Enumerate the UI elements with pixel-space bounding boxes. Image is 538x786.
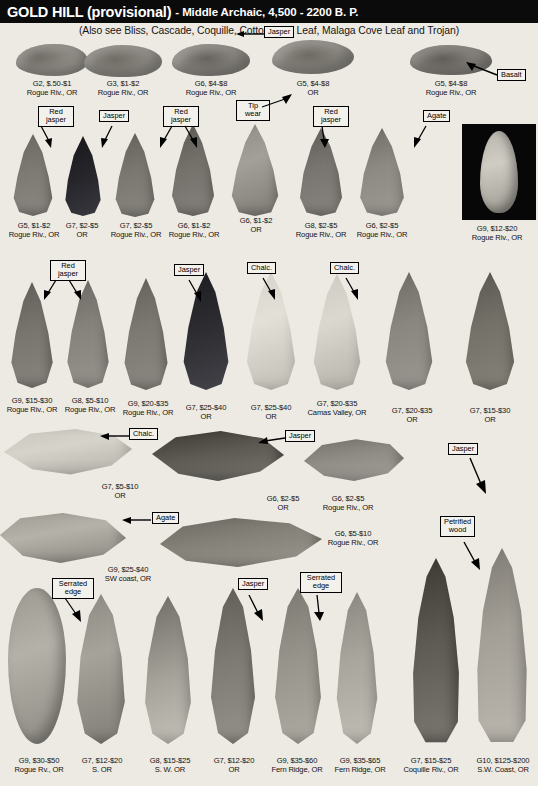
callout-serrated-edge-1: Serrated edge	[52, 578, 94, 599]
caption-locality: OR	[72, 491, 168, 500]
callout-chalc-3: Chalc.	[129, 428, 158, 440]
caption-grade-price: G10, $125-$200	[455, 756, 538, 765]
leader-agate-2	[122, 516, 152, 526]
artifact-r3-3	[121, 278, 171, 390]
leader-red-jasper-2a	[158, 126, 174, 148]
artifact-r5-2	[160, 516, 322, 568]
leader-jasper-5	[466, 458, 488, 494]
artifact-r6-6	[334, 592, 380, 744]
leader-jasper-3	[188, 280, 204, 302]
leader-chalc-1	[262, 278, 278, 300]
callout-chalc-1: Chalc.	[247, 262, 276, 274]
caption-r6-8: G10, $125-$200 S.W. Coast, OR	[455, 756, 538, 774]
leader-serrated-edge-2	[312, 595, 326, 621]
leader-red-jasper-4a	[42, 280, 58, 300]
artifact-r1-3	[172, 44, 250, 76]
caption-r2-7: G6, $2-$5 Rogue Riv., OR	[336, 221, 428, 239]
artifact-r2-8-frame	[462, 124, 536, 220]
artifact-image	[334, 592, 380, 744]
callout-agate-2: Agate	[152, 512, 179, 524]
caption-locality: Rogue Riv., OR	[163, 88, 259, 97]
artifact-image	[8, 588, 66, 744]
leader-chalc-3	[100, 432, 130, 442]
caption-locality: Rogue Riv., OR	[403, 88, 499, 97]
leader-red-jasper-3	[318, 126, 332, 148]
artifact-r3-8	[462, 272, 518, 390]
callout-jasper-5: Jasper	[448, 443, 478, 455]
caption-grade-price: G6, $5-$10	[305, 529, 401, 538]
caption-locality: Rogue Riv., OR	[336, 230, 428, 239]
artifact-image	[112, 133, 158, 217]
callout-jasper-6: Jasper	[238, 578, 268, 590]
artifact-image	[16, 44, 88, 76]
artifact-image	[228, 124, 282, 216]
caption-r5-2: G6, $5-$10 Rogue Riv., OR	[305, 529, 401, 547]
artifact-image	[0, 512, 126, 564]
artifact-image	[382, 272, 436, 390]
artifact-r1-2	[84, 45, 162, 77]
caption-r2-8: G9, $12-$20 Rogue Riv., OR	[451, 224, 538, 242]
callout-petrified-wood: Petrified wood	[440, 516, 475, 537]
artifact-image	[142, 596, 194, 744]
artifact-image	[462, 272, 518, 390]
callout-serrated-edge-2: Serrated edge	[300, 572, 342, 593]
artifact-image	[480, 131, 518, 213]
artifact-image	[474, 548, 530, 744]
caption-r1-2: G3, $1-$2 Rogue Riv., OR	[75, 79, 171, 97]
caption-r1-3: G6, $4-$8 Rogue Riv., OR	[163, 79, 259, 97]
artifact-r2-3	[112, 133, 158, 217]
callout-jasper-2: Jasper	[99, 110, 129, 122]
artifact-image	[121, 278, 171, 390]
caption-r3-8: G7, $15-$30 OR	[444, 406, 536, 424]
artifact-r3-7	[382, 272, 436, 390]
callout-red-jasper-4: Red jasper	[50, 260, 86, 281]
caption-grade-price: G9, $12-$20	[451, 224, 538, 233]
caption-locality: Rogue Riv., OR	[300, 503, 396, 512]
artifact-r2-2	[62, 136, 104, 216]
leader-jasper-2	[100, 126, 114, 148]
callout-agate-1: Agate	[423, 110, 450, 122]
leader-jasper-4	[258, 435, 286, 445]
callout-chalc-2: Chalc.	[330, 262, 359, 274]
callout-red-jasper-2: Red jasper	[163, 106, 199, 127]
caption-locality: OR	[444, 415, 536, 424]
leader-jasper-6	[247, 595, 265, 621]
caption-grade-price: G3, $1-$2	[75, 79, 171, 88]
artifact-r2-5	[228, 124, 282, 216]
caption-grade-price: G7, $5-$10	[72, 482, 168, 491]
caption-grade-price: G6, $2-$5	[336, 221, 428, 230]
leader-red-jasper-1	[40, 126, 54, 148]
caption-grade-price: G6, $4-$8	[163, 79, 259, 88]
leader-agate-1	[412, 126, 428, 148]
page-title: GOLD HILL (provisional)	[7, 4, 171, 20]
artifact-r2-7	[356, 128, 408, 216]
caption-locality: S.W. Coast, OR	[455, 765, 538, 774]
callout-jasper-r1: Jasper	[264, 26, 294, 38]
caption-grade-price: G7, $15-$30	[444, 406, 536, 415]
caption-r1-5: G5, $4-$8 Rogue Riv., OR	[403, 79, 499, 97]
caption-grade-price: G5, $4-$8	[265, 79, 361, 88]
artifact-r5-1	[0, 512, 126, 564]
artifact-image	[160, 516, 322, 568]
artifact-r4-3	[304, 438, 404, 482]
callout-jasper-3: Jasper	[174, 264, 204, 276]
callout-jasper-4: Jasper	[285, 430, 315, 442]
artifact-r1-4	[272, 40, 354, 74]
artifact-image	[410, 558, 462, 744]
leader-tip-wear	[261, 94, 293, 110]
plate-title-bar: GOLD HILL (provisional) - Middle Archaic…	[0, 0, 538, 23]
callout-basalt-r1: Basalt	[497, 69, 526, 81]
page-subtitle-period: - Middle Archaic, 4,500 - 2200 B. P.	[175, 6, 358, 18]
callout-red-jasper-3: Red jasper	[313, 106, 349, 127]
caption-grade-price: G6, $2-$5	[300, 494, 396, 503]
artifact-r1-1	[16, 44, 88, 76]
leader-basalt-r1	[466, 62, 498, 78]
caption-locality: Rogue Riv., OR	[305, 538, 401, 547]
artifact-r6-3	[142, 596, 194, 744]
artifact-r5-blade-2	[474, 548, 530, 744]
caption-r5-1: G9, $25-$40 SW coast, OR	[80, 565, 176, 583]
caption-r4-1: G7, $5-$10 OR	[72, 482, 168, 500]
artifact-image	[84, 45, 162, 77]
artifact-image	[356, 128, 408, 216]
plate-sheet: GOLD HILL (provisional) - Middle Archaic…	[0, 0, 538, 786]
